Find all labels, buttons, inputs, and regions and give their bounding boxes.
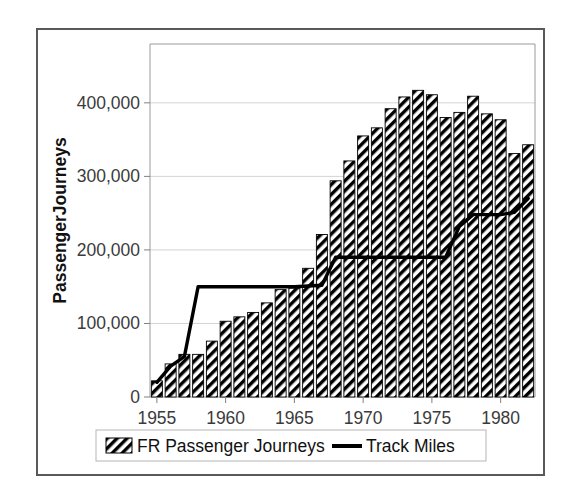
bar — [371, 128, 382, 397]
bar — [193, 354, 204, 397]
bar — [509, 154, 520, 397]
y-tick-label: 0 — [130, 387, 140, 407]
chart-frame: 0100,000200,000300,000400,000 1955196019… — [36, 28, 545, 476]
y-axis-title: PassengerJourneys — [50, 137, 70, 304]
bar — [248, 312, 259, 397]
bar — [523, 145, 534, 397]
y-tick-label: 400,000 — [77, 93, 141, 113]
bar — [344, 161, 355, 397]
bar — [289, 288, 300, 397]
x-tick-label: 1975 — [412, 408, 451, 428]
y-tick-label: 200,000 — [77, 240, 141, 260]
bar — [413, 90, 424, 397]
x-tick-label: 1960 — [206, 408, 245, 428]
bar — [426, 95, 437, 397]
x-tick-label: 1970 — [344, 408, 383, 428]
legend-swatch-hatch — [106, 438, 132, 453]
bar — [220, 321, 231, 397]
bar — [481, 114, 492, 397]
bar — [275, 290, 286, 397]
x-tick-label: 1965 — [275, 408, 314, 428]
bar — [234, 317, 245, 397]
x-tick-label: 1955 — [137, 408, 176, 428]
bar — [454, 112, 465, 397]
bar — [316, 234, 327, 397]
bar — [261, 303, 272, 397]
chart-legend: FR Passenger JourneysTrack Miles — [96, 430, 486, 461]
bar — [399, 97, 410, 397]
bar — [468, 96, 479, 397]
chart-figure: 0100,000200,000300,000400,000 1955196019… — [0, 0, 574, 503]
bar — [385, 109, 396, 397]
bar — [330, 181, 341, 397]
legend-label-fr-passenger-journeys: FR Passenger Journeys — [137, 436, 325, 456]
y-axis-title-text: PassengerJourneys — [50, 137, 70, 304]
x-axis-ticks: 195519601965197019751980 — [137, 397, 520, 428]
bar — [495, 120, 506, 397]
x-tick-label: 1980 — [481, 408, 520, 428]
legend-label-track-miles: Track Miles — [366, 436, 455, 456]
bar-series-fr-passenger-journeys — [151, 90, 533, 397]
y-tick-label: 100,000 — [77, 313, 141, 333]
y-tick-label: 300,000 — [77, 166, 141, 186]
chart-plot: 0100,000200,000300,000400,000 1955196019… — [38, 30, 543, 474]
y-axis-ticks: 0100,000200,000300,000400,000 — [77, 93, 150, 407]
bar — [206, 341, 217, 397]
bar — [358, 136, 369, 397]
